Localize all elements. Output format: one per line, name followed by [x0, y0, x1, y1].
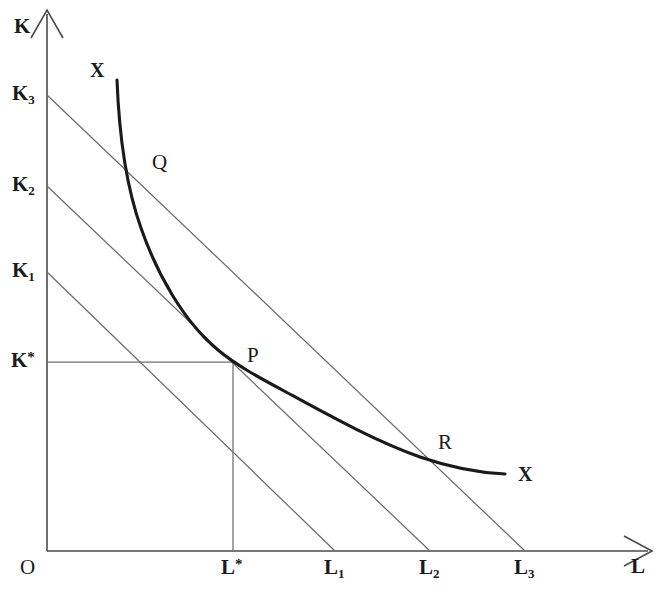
isocost-line-2 — [47, 186, 430, 551]
y-tick-k3: K3 — [12, 83, 35, 104]
x-tick-l2-sub: 2 — [433, 566, 440, 581]
isoquant-curve — [117, 80, 505, 474]
y-tick-k1-base: K — [12, 258, 28, 282]
x-tick-l2: L2 — [419, 557, 440, 578]
y-tick-k3-sub: 3 — [28, 92, 35, 107]
x-tick-l3-sub: 3 — [528, 566, 535, 581]
isoquant-label-left: X — [90, 60, 104, 80]
isocost-line-3 — [47, 95, 525, 551]
l-axis-label: L — [631, 556, 645, 577]
x-tick-lstar: L* — [221, 557, 243, 578]
isoquant-isocost-figure: K L O K3 K2 K1 K* L* L1 L2 L3 Q P R X X — [0, 0, 657, 601]
x-tick-l1-base: L — [324, 555, 338, 579]
y-tick-k2: K2 — [12, 174, 35, 195]
isocost-line-1 — [47, 272, 335, 551]
x-tick-l3: L3 — [514, 557, 535, 578]
x-tick-l1: L1 — [324, 557, 345, 578]
y-tick-kstar: K* — [11, 350, 35, 371]
x-tick-l3-base: L — [514, 555, 528, 579]
point-label-r: R — [438, 432, 452, 453]
y-tick-k1-sub: 1 — [28, 269, 35, 284]
isoquant-label-right: X — [518, 464, 532, 484]
origin-label: O — [20, 557, 35, 578]
y-tick-kstar-sup: * — [27, 349, 35, 365]
y-tick-kstar-base: K — [11, 348, 27, 372]
x-tick-lstar-sup: * — [235, 556, 243, 572]
y-tick-k3-base: K — [12, 81, 28, 105]
y-tick-k2-base: K — [12, 172, 28, 196]
point-label-q: Q — [152, 152, 167, 173]
x-tick-lstar-base: L — [221, 555, 235, 579]
y-tick-k2-sub: 2 — [28, 183, 35, 198]
x-tick-l2-base: L — [419, 555, 433, 579]
point-label-p: P — [247, 345, 259, 366]
diagram-canvas — [0, 0, 657, 601]
x-tick-l1-sub: 1 — [338, 566, 345, 581]
k-axis-label: K — [14, 16, 30, 37]
y-tick-k1: K1 — [12, 260, 35, 281]
